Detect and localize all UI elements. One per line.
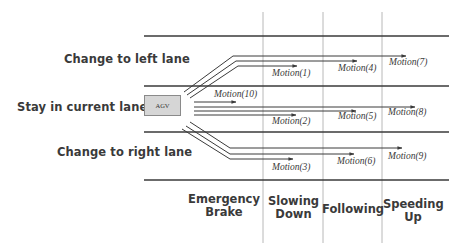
agv-vehicle: AGV — [144, 95, 181, 116]
right-lane-trajectories — [182, 122, 402, 159]
label-speeding-up: Speeding Up — [383, 198, 443, 224]
motion-label-6: Motion(6) — [337, 156, 376, 166]
motion-label-7: Motion(7) — [389, 57, 428, 67]
motion-label-2: Motion(2) — [272, 116, 311, 126]
trajectory-motion-6 — [186, 126, 354, 154]
motion-label-4: Motion(4) — [338, 63, 377, 73]
motion-label-9: Motion(9) — [388, 151, 427, 161]
motion-label-3: Motion(3) — [272, 162, 311, 172]
motion-label-5: Motion(5) — [338, 111, 377, 121]
motion-options-diagram: Change to left lane Stay in current lane… — [0, 0, 464, 252]
label-change-left-lane: Change to left lane — [64, 52, 190, 66]
label-stay-current-lane: Stay in current lane — [17, 100, 147, 114]
motion-label-10: Motion(10) — [214, 89, 257, 99]
motion-label-8: Motion(8) — [388, 107, 427, 117]
label-slowing-down: Slowing Down — [264, 195, 323, 221]
label-emergency-brake: Emergency Brake — [186, 193, 262, 219]
label-change-right-lane: Change to right lane — [57, 145, 192, 159]
label-following: Following — [322, 203, 384, 216]
motion-label-1: Motion(1) — [272, 68, 311, 78]
